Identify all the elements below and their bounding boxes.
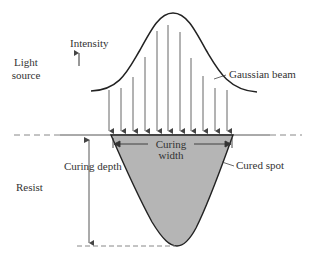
resist-label: Resist	[16, 181, 43, 193]
cured-spot-leader	[222, 162, 234, 166]
curing-diagram: Light source Intensity Gaussian beam Cur…	[0, 0, 312, 264]
curing-depth-label: Curing depth	[64, 160, 122, 172]
light-source-label-2: source	[12, 69, 41, 81]
intensity-label: Intensity	[70, 37, 109, 49]
cured-spot-label: Cured spot	[236, 159, 284, 171]
curing-width-label-2: width	[158, 149, 184, 161]
gaussian-beam-label: Gaussian beam	[229, 68, 296, 80]
light-source-label: Light	[14, 56, 38, 68]
beam-arrows	[109, 25, 227, 131]
gaussian-beam-curve	[91, 13, 257, 92]
